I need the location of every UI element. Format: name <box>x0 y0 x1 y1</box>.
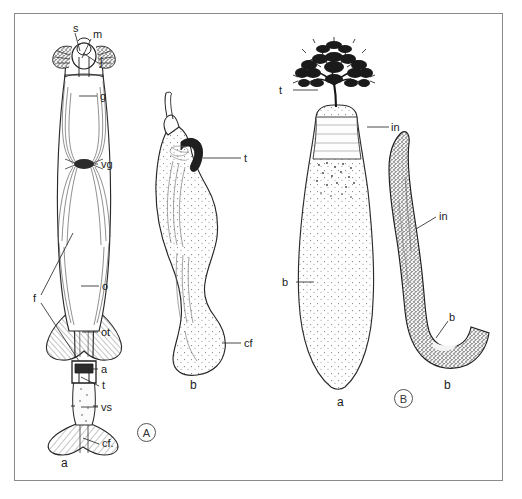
plate-frame: s m j g vg f o ot a t vs cf. t cf t in b… <box>14 13 503 481</box>
panel-tag-A: A <box>137 423 156 442</box>
label-b-Bb: b <box>449 312 455 323</box>
vesicular-stem <box>73 379 96 425</box>
label-j: j <box>100 56 102 67</box>
label-g: g <box>100 91 106 102</box>
label-t-Ab: t <box>244 153 247 164</box>
label-cf-dot: cf. <box>102 438 114 449</box>
figure-A-a <box>41 33 122 455</box>
label-vg: vg <box>101 159 113 170</box>
label-o: o <box>102 281 108 292</box>
label-t-Aa: t <box>102 380 105 391</box>
label-in-Ba: in <box>391 122 400 133</box>
sublabel-B-b: b <box>444 379 451 391</box>
sublabel-A-b: b <box>190 379 197 391</box>
crown-foliage <box>295 41 373 87</box>
sublabel-B-a: a <box>337 396 344 408</box>
organ-body <box>156 127 226 375</box>
label-f: f <box>33 293 36 304</box>
lateral-tuft-right <box>96 46 115 68</box>
label-cf: cf <box>244 338 253 349</box>
panel-tag-B: B <box>394 389 413 408</box>
illustration-plate: s m j g vg f o ot a t vs cf. t cf t in b… <box>0 0 522 499</box>
figures-canvas <box>15 14 502 480</box>
sublabel-A-a: a <box>61 457 68 469</box>
label-vs: vs <box>101 402 112 413</box>
label-in-Bb: in <box>439 211 448 222</box>
lateral-tuft-left <box>53 46 72 68</box>
figure-B-a <box>293 37 389 389</box>
label-a: a <box>101 364 107 375</box>
label-m: m <box>93 29 102 40</box>
sheath-band <box>313 117 361 159</box>
label-b-Ba: b <box>282 277 288 288</box>
label-t-Ba: t <box>279 85 282 96</box>
figure-B-b <box>389 132 489 369</box>
label-ot: ot <box>101 327 110 338</box>
figure-A-b <box>156 92 241 375</box>
label-s: s <box>73 23 79 34</box>
